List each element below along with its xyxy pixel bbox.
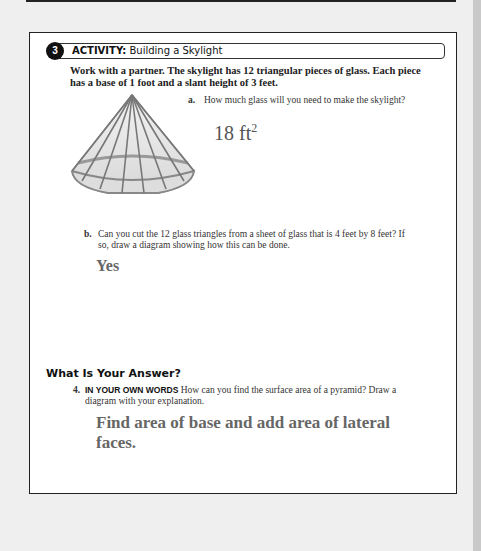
activity-intro: Work with a partner. The skylight has 12… (70, 65, 430, 89)
question-a-label: a. (188, 95, 195, 106)
activity-label: ACTIVITY: (72, 45, 126, 56)
answer-4: Find area of base and add area of latera… (96, 413, 396, 453)
question-a-text: How much glass will you need to make the… (204, 95, 405, 105)
question-a: a. How much glass will you need to make … (204, 95, 424, 106)
question-b-label: b. (84, 229, 92, 240)
question-4: 4. IN YOUR OWN WORDS How can you find th… (85, 385, 425, 407)
top-border (26, 0, 456, 2)
activity-number-badge: 3 (46, 42, 64, 60)
activity-title: ACTIVITY: Building a Skylight (72, 45, 222, 56)
page-edge (473, 0, 481, 551)
question-b-text: Can you cut the 12 glass triangles from … (98, 229, 405, 250)
question-4-keyword: IN YOUR OWN WORDS (85, 385, 178, 395)
answer-a-value: 18 ft (214, 122, 251, 144)
activity-name: Building a Skylight (129, 45, 222, 56)
question-b: b. Can you cut the 12 glass triangles fr… (98, 229, 408, 251)
question-4-number: 4. (73, 385, 80, 396)
worksheet-page: 3 ACTIVITY: Building a Skylight Work wit… (29, 32, 457, 494)
skylight-pyramid-figure (68, 91, 198, 199)
answer-a: 18 ft2 (214, 121, 257, 145)
answer-b: Yes (96, 257, 119, 275)
answer-a-exponent: 2 (251, 121, 257, 135)
section-title: What Is Your Answer? (46, 367, 181, 380)
activity-header: 3 ACTIVITY: Building a Skylight (53, 43, 445, 59)
